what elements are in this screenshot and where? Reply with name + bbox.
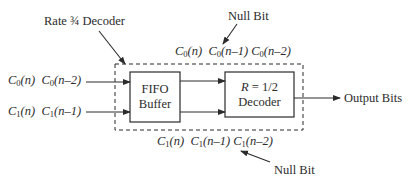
symbol: C (208, 44, 216, 58)
bottom-null-bit-pointer-arrow (241, 151, 270, 162)
decoder-rate-line: R = 1/2 (225, 80, 294, 95)
argument: (n) (170, 134, 185, 148)
top-c0-sequence: C0(n) C0(n–1) C0(n–2) (175, 45, 291, 59)
input-row-c0: C0(n) C0(n–2) (8, 74, 81, 88)
argument: (n–1) (221, 44, 248, 58)
argument: (n–2) (54, 73, 81, 87)
decoder-text: R = 1/2 Decoder (225, 80, 294, 110)
output-bits-text: Output Bits (344, 91, 402, 105)
rate-decoder-label: Rate ¾ Decoder (44, 15, 125, 28)
argument: (n) (21, 104, 36, 118)
symbol: C (41, 73, 49, 87)
input-row-c1: C1(n) C1(n–1) (8, 105, 81, 119)
symbol: C (251, 44, 259, 58)
bottom-null-bit-text: Null Bit (274, 163, 315, 177)
top-null-bit-label: Null Bit (228, 10, 269, 23)
fifo-line1: FIFO (130, 82, 180, 97)
rate-label-pointer-arrow (99, 31, 125, 64)
argument: (n–1) (203, 134, 230, 148)
symbol: C (233, 134, 241, 148)
argument: (n–1) (54, 104, 81, 118)
rate-value: = 1/2 (249, 80, 278, 94)
bottom-c1-sequence: C1(n) C1(n–1) C1(n–2) (157, 135, 273, 149)
decoder-line2: Decoder (225, 95, 294, 110)
bottom-null-bit-label: Null Bit (274, 164, 315, 177)
rate-variable: R (241, 80, 249, 94)
symbol: C (190, 134, 198, 148)
fifo-line2: Buffer (130, 97, 180, 112)
top-null-bit-pointer-arrow (223, 24, 237, 44)
argument: (n–2) (246, 134, 273, 148)
output-bits-label: Output Bits (344, 92, 402, 105)
argument: (n) (188, 44, 203, 58)
symbol: C (41, 104, 49, 118)
argument: (n–2) (264, 44, 291, 58)
fifo-buffer-text: FIFO Buffer (130, 82, 180, 112)
top-null-bit-text: Null Bit (228, 9, 269, 23)
argument: (n) (21, 73, 36, 87)
rate-decoder-label-text: Rate ¾ Decoder (44, 14, 125, 28)
